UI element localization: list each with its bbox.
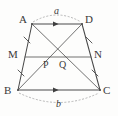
midpoint-label-N: N [94,49,102,60]
dot-C [99,89,101,91]
vertex-label-D: D [85,14,93,25]
congruence-ticks [18,37,98,76]
vertex-label-B: B [4,85,11,96]
measure-label-b: b [56,99,61,109]
arrow-marker-BC [53,87,59,92]
measure-label-a: a [54,6,59,16]
dot-B [17,89,19,91]
arrow-marker-AD [53,21,59,26]
midpoint-label-M: M [8,49,18,60]
top-base-arc-a [33,15,81,22]
dot-A [31,23,33,25]
dot-D [81,23,83,25]
point-label-Q: Q [59,60,66,70]
point-label-P: P [43,60,49,70]
vertex-label-C: C [103,85,110,96]
geometry-figure: A D B C M N P Q a b [0,0,118,116]
vertex-label-A: A [19,14,27,25]
